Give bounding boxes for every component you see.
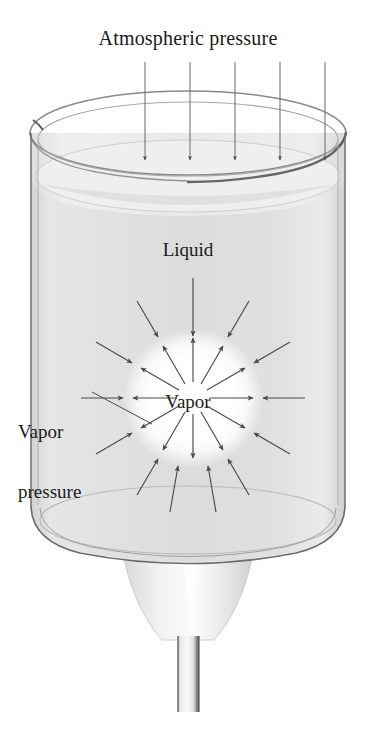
diagram-canvas [0, 0, 376, 737]
vapor-pressure-diagram: Atmospheric pressure Liquid Vapor Vapor … [0, 0, 376, 737]
vapor-pressure-label-line1: Vapor [18, 422, 138, 442]
vapor-pressure-label: Vapor pressure [18, 382, 138, 542]
atmospheric-pressure-label: Atmospheric pressure [0, 28, 376, 49]
vapor-pressure-label-line2: pressure [18, 482, 138, 502]
vessel-rim-nick [33, 120, 43, 130]
liquid-label: Liquid [0, 240, 376, 260]
vessel-stem [177, 636, 200, 712]
